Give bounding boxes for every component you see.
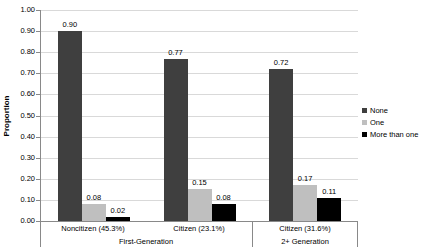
category-label: Noncitizen (45.3%) — [40, 222, 146, 235]
bar: 0.17 — [293, 185, 317, 221]
category-label: Citizen (23.1%) — [146, 222, 252, 235]
bar-value-label: 0.08 — [87, 194, 102, 202]
y-tick-label: 0.10 — [20, 196, 35, 204]
legend-label: More than one — [370, 130, 418, 139]
y-axis-tick — [36, 116, 40, 117]
y-tick-label: 0.60 — [20, 90, 35, 98]
axis-separator — [40, 222, 41, 247]
category-axis: Noncitizen (45.3%)Citizen (23.1%)Citizen… — [40, 222, 358, 248]
y-axis-tick — [36, 179, 40, 180]
bar-value-label: 0.15 — [192, 179, 207, 187]
y-tick-label: 0.00 — [20, 217, 35, 225]
y-axis-tick — [36, 94, 40, 95]
y-axis-tick — [36, 31, 40, 32]
bar: 0.08 — [212, 204, 236, 221]
bar-value-label: 0.02 — [111, 207, 126, 215]
bar: 0.90 — [58, 31, 82, 221]
category-label-row: Noncitizen (45.3%)Citizen (23.1%)Citizen… — [40, 222, 358, 235]
y-tick-label: 0.70 — [20, 69, 35, 77]
bar-value-label: 0.08 — [216, 194, 231, 202]
group-label-row: First-Generation2+ Generation — [40, 235, 358, 248]
y-tick-label: 0.90 — [20, 27, 35, 35]
group-label: First-Generation — [40, 235, 252, 248]
bar-group: 0.770.150.08 — [147, 10, 253, 221]
legend-item: More than one — [362, 130, 418, 139]
bar-value-label: 0.72 — [274, 59, 289, 67]
legend-marker — [362, 108, 367, 113]
y-axis-tick — [36, 10, 40, 11]
bar: 0.72 — [269, 69, 293, 221]
bar-chart: Proportion 0.000.100.200.300.400.500.600… — [0, 0, 424, 249]
axis-separator — [252, 222, 253, 247]
y-axis-title: Proportion — [2, 10, 12, 222]
y-tick-label: 0.40 — [20, 133, 35, 141]
legend-marker — [362, 120, 367, 125]
legend: NoneOneMore than one — [362, 106, 418, 139]
bar-group: 0.900.080.02 — [41, 10, 147, 221]
legend-item: None — [362, 106, 418, 115]
y-axis-tick — [36, 52, 40, 53]
legend-label: None — [370, 106, 388, 115]
y-tick-label: 0.20 — [20, 175, 35, 183]
bar: 0.11 — [317, 198, 341, 221]
y-axis-tick — [36, 158, 40, 159]
y-tick-label: 1.00 — [20, 6, 35, 14]
plot-area: 0.000.100.200.300.400.500.600.700.800.90… — [40, 10, 358, 222]
bar-value-label: 0.77 — [168, 49, 183, 57]
bar-groups: 0.900.080.020.770.150.080.720.170.11 — [41, 10, 358, 221]
y-axis-tick — [36, 73, 40, 74]
bar-group: 0.720.170.11 — [252, 10, 358, 221]
bar-value-label: 0.17 — [298, 175, 313, 183]
bar: 0.02 — [106, 217, 130, 221]
y-axis-tick — [36, 200, 40, 201]
y-tick-label: 0.50 — [20, 112, 35, 120]
legend-marker — [362, 132, 367, 137]
y-tick-label: 0.80 — [20, 48, 35, 56]
bar-value-label: 0.90 — [63, 21, 78, 29]
legend-label: One — [370, 118, 384, 127]
category-label: Citizen (31.6%) — [252, 222, 358, 235]
legend-item: One — [362, 118, 418, 127]
bar: 0.08 — [82, 204, 106, 221]
bar-value-label: 0.11 — [322, 188, 336, 196]
y-tick-label: 0.30 — [20, 154, 35, 162]
axis-separator — [357, 222, 358, 247]
y-axis-tick — [36, 137, 40, 138]
bar: 0.77 — [164, 59, 188, 221]
bar: 0.15 — [188, 189, 212, 221]
group-label: 2+ Generation — [252, 235, 358, 248]
